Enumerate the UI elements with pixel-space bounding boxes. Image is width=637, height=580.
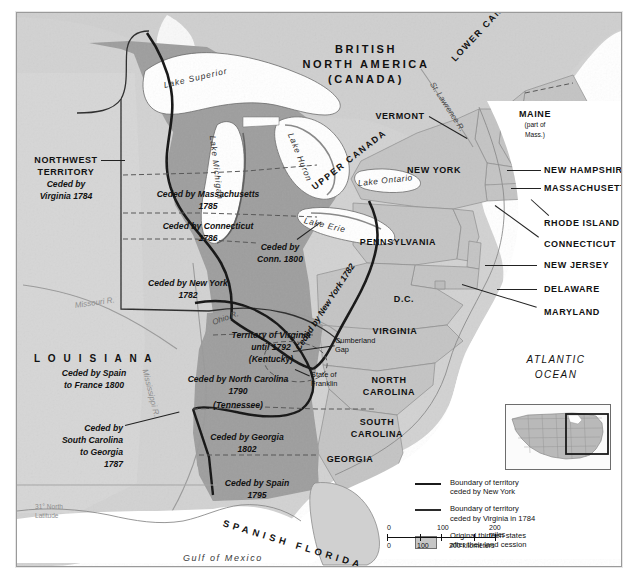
cession-nc-l1: Ceded by North Carolina	[188, 375, 289, 385]
state-label-southcarolina-l2: CAROLINA	[351, 429, 403, 439]
region-label-british: BRITISH	[335, 43, 397, 55]
scale-miles-100: 100	[437, 524, 449, 531]
cession-louisiana-l2: to France 1800	[64, 381, 124, 391]
state-label-connecticut: CONNECTICUT	[544, 239, 616, 249]
map-frame: BRITISH NORTH AMERICA (CANADA) LOWER CAN…	[16, 12, 622, 567]
cession-nwt-l2: TERRITORY	[38, 167, 95, 177]
cession-sc-l2: South Carolina	[62, 436, 123, 446]
state-label-virginia: VIRGINIA	[373, 326, 418, 336]
leader-newhampshire	[507, 170, 541, 171]
legend-ny-l1: Boundary of territory	[450, 478, 519, 488]
cession-va-ky-l1: Territory of Virginia	[231, 331, 310, 341]
scale-km-200: 200 kilometers	[449, 542, 495, 549]
region-label-ocean: OCEAN	[535, 369, 578, 380]
legend-item-virginia: Boundary of territory ceded by Virginia …	[415, 504, 611, 523]
state-label-southcarolina-l1: SOUTH	[360, 417, 395, 427]
state-label-maine-l3: Mass.)	[525, 131, 545, 138]
cession-va-ky-l3: (Kentucky)	[249, 355, 293, 365]
cession-spain-l1: Ceded by Spain	[225, 479, 289, 489]
latitude-label-l1: 31° North	[35, 503, 63, 510]
place-cumberland-gap-l2: Gap	[335, 346, 349, 354]
map-scale-bar: 0 100 200 miles 0 100 200 kilometers	[387, 524, 509, 552]
cession-va-ky-l2: until 1792	[251, 343, 291, 353]
cession-conn-l1: Ceded by Connecticut	[163, 222, 254, 232]
cession-nwt-l4: Virginia 1784	[40, 192, 93, 202]
state-delaware	[467, 241, 481, 269]
scale-km-100: 100	[417, 542, 429, 549]
place-franklin-l2: Franklin	[311, 380, 337, 388]
cession-conn1800-l2: Conn. 1800	[257, 255, 303, 265]
legend-text-ny: Boundary of territory ceded by New York	[450, 478, 519, 497]
leader-newjersey	[485, 265, 537, 266]
cession-conn-l2: 1786	[198, 234, 217, 244]
region-label-atlantic: ATLANTIC	[527, 354, 586, 365]
scale-miles-numbers: 0 100 200 miles	[387, 524, 509, 534]
cession-sc-l4: 1787	[104, 460, 123, 470]
legend-va-l2: ceded by Virginia in 1784	[450, 514, 535, 524]
state-label-delaware: DELAWARE	[544, 284, 600, 294]
state-label-dc: D.C.	[394, 294, 414, 304]
legend-text-va: Boundary of territory ceded by Virginia …	[450, 504, 535, 523]
state-label-pennsylvania: PENNSYLVANIA	[360, 237, 436, 247]
cession-nc-l3: (Tennessee)	[213, 401, 263, 411]
legend-item-newyork: Boundary of territory ceded by New York	[415, 478, 611, 497]
legend-key-ny-line	[415, 483, 441, 486]
cession-sc-l3: to Georgia	[80, 448, 123, 458]
inset-usa	[506, 405, 610, 469]
state-label-rhodeisland: RHODE ISLAND	[544, 218, 620, 228]
leader-massachusetts	[511, 188, 541, 189]
scale-axis	[387, 534, 509, 541]
latitude-label-l2: Latitude	[35, 512, 58, 519]
region-label-canada: (CANADA)	[328, 73, 404, 85]
state-label-maryland: MARYLAND	[544, 307, 600, 317]
cession-ny-l2: 1782	[178, 291, 197, 301]
region-label-louisiana: L O U I S I A N A	[34, 353, 154, 364]
cession-ga-l1: Ceded by Georgia	[210, 433, 284, 443]
strait-mackinac	[243, 117, 279, 127]
state-label-georgia: GEORGIA	[327, 454, 374, 464]
state-label-newjersey: NEW JERSEY	[544, 260, 609, 270]
state-label-massachusetts: MASSACHUSETTS	[544, 183, 622, 193]
leader-nwt	[101, 160, 125, 161]
cession-mass-l2: 1785	[198, 202, 217, 212]
legend-key-va-line	[415, 509, 441, 511]
cession-ny-l1: Ceded by New York	[148, 279, 228, 289]
legend-ny-l2: ceded by New York	[450, 487, 519, 497]
state-label-maine-l2: (part of	[525, 121, 546, 128]
legend-va-l1: Boundary of territory	[450, 504, 535, 514]
map-root: BRITISH NORTH AMERICA (CANADA) LOWER CAN…	[0, 0, 637, 580]
cession-nwt-l3: Ceded by	[47, 180, 86, 190]
scale-km-numbers: 0 100 200 kilometers	[387, 541, 509, 552]
state-label-northcarolina-l2: CAROLINA	[363, 387, 415, 397]
region-label-gulf-of-mexico: Gulf of Mexico	[183, 553, 263, 563]
cession-nwt-l1: NORTHWEST	[34, 155, 97, 165]
cession-ga-l2: 1802	[237, 445, 256, 455]
cession-sc-l1: Ceded by	[84, 424, 123, 434]
cession-louisiana-l1: Ceded by Spain	[62, 369, 126, 379]
state-dc	[435, 281, 445, 289]
cession-conn1800-l1: Ceded by	[261, 243, 300, 253]
state-label-vermont: VERMONT	[375, 111, 424, 121]
state-label-newyork: NEW YORK	[407, 165, 461, 175]
inset-locator-map	[505, 404, 611, 470]
cession-nc-l2: 1790	[228, 387, 247, 397]
leader-delaware	[497, 289, 537, 290]
region-label-north-america: NORTH AMERICA	[303, 58, 430, 70]
state-label-northcarolina-l1: NORTH	[372, 375, 407, 385]
state-label-newhampshire: NEW HAMPSHIRE	[544, 165, 622, 175]
cession-spain-l2: 1795	[247, 491, 266, 501]
cession-mass-l1: Ceded by Massachusetts	[157, 190, 260, 200]
scale-miles-0: 0	[387, 524, 391, 531]
scale-km-0: 0	[387, 542, 391, 549]
state-label-maine: MAINE	[519, 109, 551, 119]
